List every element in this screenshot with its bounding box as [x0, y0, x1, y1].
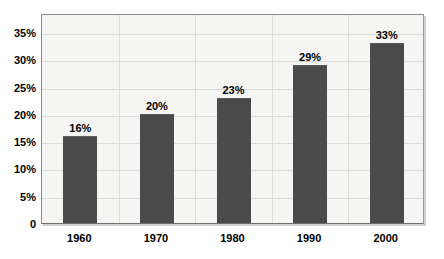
y-axis-tick-label: 5% [0, 191, 36, 202]
x-axis-tick-label: 1990 [284, 232, 334, 244]
plot-frame: 16%20%23%29%33% [41, 14, 424, 224]
plot-area: 16%20%23%29%33% [42, 15, 423, 223]
x-axis-tick-label: 1960 [54, 232, 104, 244]
x-axis-tick-label: 1970 [131, 232, 181, 244]
bar [63, 136, 97, 223]
y-axis: 05%10%15%20%25%30%35% [0, 14, 36, 224]
y-axis-tick-label: 25% [0, 82, 36, 93]
x-axis: 19601970198019902000 [41, 232, 424, 248]
bar [370, 43, 404, 223]
gridline-horizontal [42, 61, 423, 62]
bar-value-label: 29% [285, 52, 335, 63]
bar-value-label: 20% [132, 101, 182, 112]
bar-value-label: 16% [55, 123, 105, 134]
y-axis-tick-label: 10% [0, 164, 36, 175]
bar [217, 98, 251, 223]
bar [293, 65, 327, 223]
bar-value-label: 23% [209, 85, 259, 96]
gridline-vertical [348, 15, 349, 223]
y-axis-tick-label: 15% [0, 137, 36, 148]
y-axis-tick-label: 0 [0, 219, 36, 230]
gridline-vertical [195, 15, 196, 223]
bar-value-label: 33% [362, 30, 412, 41]
gridline-vertical [119, 15, 120, 223]
y-axis-tick-label: 20% [0, 109, 36, 120]
x-axis-tick-label: 1980 [208, 232, 258, 244]
y-axis-tick-label: 30% [0, 55, 36, 66]
gridline-vertical [272, 15, 273, 223]
x-axis-tick-label: 2000 [361, 232, 411, 244]
bar-chart: 05%10%15%20%25%30%35% 16%20%23%29%33% 19… [0, 0, 444, 259]
bar [140, 114, 174, 223]
y-axis-tick-label: 35% [0, 28, 36, 39]
